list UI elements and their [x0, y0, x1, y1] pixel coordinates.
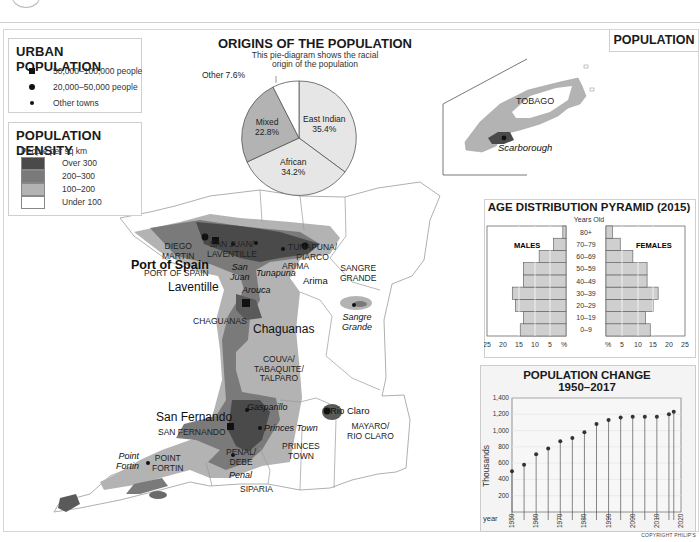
data-point [619, 416, 623, 420]
swatch-label: 100–200 [62, 184, 95, 194]
data-point [582, 430, 586, 434]
copyright-notice: COPYRIGHT PHILIP'S [641, 532, 696, 538]
data-point [595, 422, 599, 426]
data-point [534, 452, 538, 456]
svg-text:20: 20 [665, 341, 673, 348]
male-bar [523, 275, 566, 287]
male-bar [523, 263, 566, 275]
svg-text:60–69: 60–69 [576, 253, 596, 260]
svg-text:15: 15 [515, 341, 523, 348]
town-arima: Arima [303, 275, 328, 286]
origins-subtitle-line: origin of the population [200, 60, 430, 69]
legend-label: 50,000–100,000 people [53, 66, 142, 76]
data-point [522, 463, 526, 467]
region-penal-debe: PENAL/DEBE [226, 448, 256, 467]
population-density-legend: POPULATION DENSITY People per sq km Over… [8, 122, 142, 216]
region-sangre-grande: SANGREGRANDE [340, 264, 376, 283]
swatch-200-300 [21, 170, 45, 183]
pyramid-males-label: MALES [514, 241, 540, 250]
scarborough-dot [502, 136, 507, 141]
pyramid-subtitle: Years Old [484, 216, 694, 223]
population-x-axis-label: year [483, 514, 498, 523]
data-point [667, 412, 671, 416]
legend-label: 20,000–50,000 people [53, 82, 138, 92]
svg-text:1,000: 1,000 [493, 427, 510, 434]
section-tag-population: POPULATION [609, 29, 698, 52]
origins-title: ORIGINS OF THE POPULATION [200, 36, 430, 51]
female-bar [606, 263, 647, 275]
region-point-fortin: POINTFORTIN [152, 454, 183, 473]
svg-text:25: 25 [681, 341, 689, 348]
pyramid-title: AGE DISTRIBUTION PYRAMID (2015) [484, 201, 694, 213]
region-tobago: TOBAGO [516, 97, 554, 107]
town-laventille: Laventille [168, 280, 219, 294]
svg-text:1970: 1970 [556, 513, 563, 528]
origins-subtitle: This pie-diagram shows the racial origin… [200, 51, 430, 69]
svg-text:1960: 1960 [532, 513, 539, 528]
town-arouca: Arouca [242, 285, 271, 295]
pie-label-east-indian: East Indian35.4% [303, 115, 346, 134]
region-mayaro-rio-claro: MAYARO/RIO CLARO [347, 422, 394, 441]
svg-text:1,200: 1,200 [493, 410, 510, 417]
female-bar [606, 324, 650, 336]
pie-label-pct: 35.4% [303, 125, 346, 135]
region-san-juan-laventille: SAN JUAN/LAVENTILLE [207, 240, 257, 259]
pie-label-pct: 34.2% [280, 168, 306, 178]
town-rio-claro: Rio Claro [330, 405, 370, 416]
male-bar [520, 324, 566, 336]
svg-text:30–39: 30–39 [576, 290, 596, 297]
female-bar [606, 226, 612, 238]
female-bar [606, 312, 646, 324]
svg-text:1,400: 1,400 [493, 394, 510, 401]
town-tunapuna: Tunapuna [256, 268, 296, 278]
swatch-label: Over 300 [62, 158, 97, 168]
svg-text:15: 15 [649, 341, 657, 348]
data-point [655, 415, 659, 419]
female-bar [606, 287, 658, 299]
legend-label: Other towns [53, 98, 99, 108]
pyramid-females-label: FEMALES [636, 241, 672, 250]
town-gasparillo: Gasparillo [247, 402, 288, 412]
square-icon [29, 68, 35, 74]
data-point [643, 415, 647, 419]
region-couva-tabaquite-talparo: COUVA/TABAQUITE/TALPARO [254, 355, 304, 384]
swatch-100-200 [21, 183, 45, 196]
data-point [510, 469, 514, 473]
svg-text:40–49: 40–49 [576, 278, 596, 285]
town-princes-town: Princes Town [264, 423, 318, 433]
pie-label-pct: 22.8% [255, 128, 279, 138]
female-bar [606, 250, 633, 262]
svg-text:2000: 2000 [629, 513, 636, 528]
svg-text:5: 5 [620, 341, 624, 348]
male-bar [553, 238, 566, 250]
male-bar [515, 299, 566, 311]
male-bar [539, 250, 566, 262]
pie-label-other: Other 7.6% [202, 71, 245, 81]
svg-text:400: 400 [498, 475, 509, 482]
female-bar [606, 275, 647, 287]
svg-text:600: 600 [498, 459, 509, 466]
density-patch [149, 491, 167, 499]
data-point [607, 418, 611, 422]
town-port-of-spain: Port of Spain [131, 258, 209, 272]
male-bar [512, 287, 566, 299]
population-change-chart: 2004006008001,0001,2001,400 195019601970… [480, 390, 694, 530]
svg-text:20–29: 20–29 [576, 302, 596, 309]
region-san-fernando: SAN FERNANDO [158, 428, 226, 438]
population-x-ticks: 19501960197019801990200020102020 [508, 513, 684, 528]
svg-text:20: 20 [499, 341, 507, 348]
svg-text:1950: 1950 [508, 513, 515, 528]
origins-pie-chart [238, 76, 438, 206]
male-bar [523, 312, 566, 324]
town-point-fortin: PointFortin [116, 451, 139, 471]
data-point [570, 436, 574, 440]
swatch-label: Under 100 [62, 197, 102, 207]
region-tunapuna-piarco: TUNAPUNA/PIARCO [288, 243, 337, 262]
data-point [631, 415, 635, 419]
svg-text:200: 200 [498, 492, 509, 499]
region-siparia: SIPARIA [240, 485, 273, 495]
town-sangre-grande: SangreGrande [342, 312, 372, 332]
svg-text:25: 25 [484, 341, 491, 348]
svg-text:1980: 1980 [580, 513, 587, 528]
population-y-ticks: 2004006008001,0001,2001,400 [493, 394, 510, 499]
